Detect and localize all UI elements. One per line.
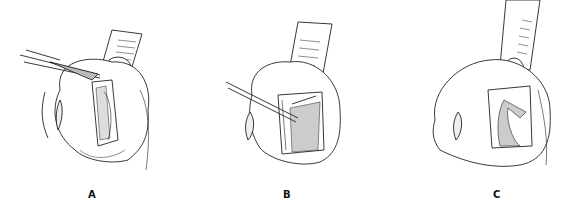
panel-a-illustration — [0, 0, 190, 190]
panel-c: C — [380, 0, 561, 213]
panel-b: B — [190, 0, 380, 213]
panel-c-illustration — [380, 0, 561, 190]
panel-b-illustration — [190, 0, 380, 190]
panel-c-label: C — [493, 189, 500, 200]
panel-a-label: A — [88, 189, 96, 200]
panel-a: A — [0, 0, 190, 213]
panel-b-label: B — [283, 189, 291, 200]
